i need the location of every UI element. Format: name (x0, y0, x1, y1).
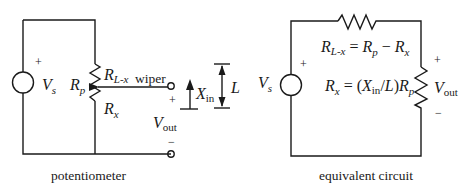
eq-vout-minus-label: − (435, 106, 442, 120)
vout-label: Vout (153, 114, 177, 133)
potentiometer-resistor-icon (90, 64, 100, 101)
equivalent-circuit: + Vs RL-x = Rp − Rx Rx = (Xin/L)Rp + Vou… (258, 15, 458, 183)
source-plus-label: + (35, 55, 42, 69)
wiper-label: wiper (135, 71, 166, 86)
circuit-diagram: + Vs Rp RL-x Rx wiper + Vout − Xin L pot… (0, 0, 469, 190)
rp-label: Rp (69, 76, 86, 96)
eq-source-plus-label: + (300, 57, 307, 71)
eq-source-label: Vs (258, 74, 272, 94)
voltage-source-icon (13, 72, 34, 93)
output-terminal-top (168, 83, 174, 89)
eq-vout-plus-label: + (434, 53, 441, 67)
length-label: L (230, 79, 240, 96)
eq-vout-label: Vout (434, 79, 458, 98)
potentiometer-circuit: + Vs Rp RL-x Rx wiper + Vout − Xin L pot… (13, 20, 241, 183)
rx-label: Rx (103, 100, 119, 120)
equation-rx: Rx = (Xin/L)Rp (324, 77, 415, 97)
vout-plus-label: + (169, 93, 176, 107)
equivalent-voltage-source-icon (281, 75, 302, 96)
equivalent-caption: equivalent circuit (319, 168, 413, 183)
source-label: Vs (42, 76, 56, 96)
xin-label: Xin (195, 85, 215, 104)
equation-rlx: RL-x = Rp − Rx (320, 38, 410, 58)
potentiometer-caption: potentiometer (51, 168, 126, 183)
left-top-wire (23, 20, 95, 64)
vout-minus-label: − (168, 135, 175, 149)
rlx-label: RL-x (103, 66, 129, 85)
